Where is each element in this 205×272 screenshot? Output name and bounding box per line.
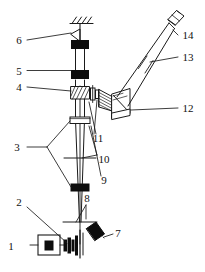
callout-8: 8 — [84, 192, 90, 204]
mid-collar — [70, 117, 90, 124]
wedge-prism — [99, 90, 112, 112]
callout-11: 11 — [93, 132, 104, 144]
ceiling-mount-bracket — [70, 17, 93, 41]
periscope-prism — [112, 89, 130, 120]
laser-source — [30, 235, 60, 255]
upper-lens-block — [72, 71, 89, 79]
callout-1: 1 — [8, 240, 14, 252]
callout-10: 10 — [99, 153, 111, 165]
beamsplitter-plate — [71, 87, 90, 100]
beam-expander-optics — [60, 230, 83, 258]
callout-2: 2 — [16, 196, 22, 208]
callout-7: 7 — [115, 227, 121, 239]
callout-9: 9 — [101, 174, 107, 186]
callout-labels: 1 2 3 4 5 6 7 8 9 10 11 12 13 14 — [8, 29, 194, 252]
lower-collar — [71, 184, 89, 191]
optical-system-diagram: 1 2 3 4 5 6 7 8 9 10 11 12 13 14 — [0, 0, 205, 272]
callout-12: 12 — [183, 102, 194, 114]
diagram-geometry — [27, 11, 184, 259]
collar-block-top — [72, 41, 89, 49]
figure-canvas: 1 2 3 4 5 6 7 8 9 10 11 12 13 14 — [0, 0, 205, 272]
barrel-band — [139, 56, 154, 73]
folding-mirror — [87, 222, 105, 241]
callout-13: 13 — [183, 51, 195, 63]
output-window — [168, 11, 184, 26]
callout-14: 14 — [183, 29, 195, 41]
callout-5: 5 — [16, 65, 22, 77]
callout-3: 3 — [14, 141, 20, 153]
callout-6: 6 — [16, 34, 22, 46]
callout-4: 4 — [16, 81, 22, 93]
